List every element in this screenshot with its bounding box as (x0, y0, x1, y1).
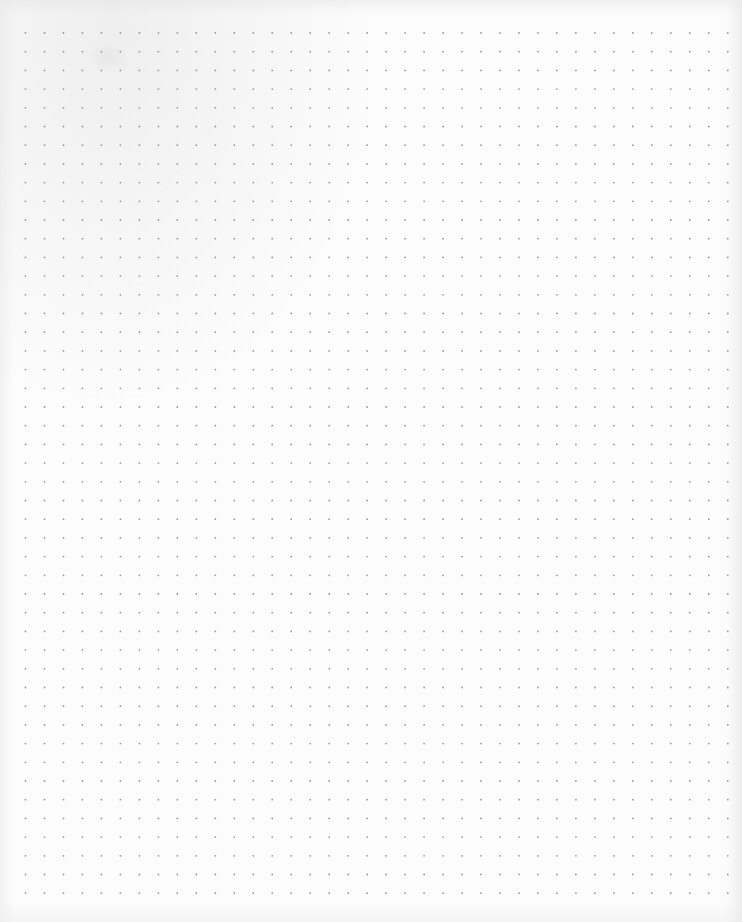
grid-dot (537, 892, 539, 894)
grid-dot (632, 406, 634, 408)
grid-dot (613, 257, 615, 259)
grid-dot (404, 668, 406, 670)
grid-dot (233, 257, 235, 259)
grid-dot (176, 257, 178, 259)
grid-dot (63, 406, 65, 408)
grid-dot (139, 537, 141, 539)
grid-dot (271, 574, 273, 576)
grid-dot (689, 294, 691, 296)
grid-dot (366, 331, 368, 333)
grid-dot (63, 88, 65, 90)
grid-dot (499, 219, 501, 221)
grid-dot (195, 593, 197, 595)
grid-dot (594, 88, 596, 90)
grid-dot (44, 649, 46, 651)
grid-dot (689, 631, 691, 633)
grid-dot (689, 855, 691, 857)
grid-dot (442, 257, 444, 259)
grid-dot (271, 126, 273, 128)
grid-dot (480, 32, 482, 34)
grid-dot (404, 88, 406, 90)
grid-dot (158, 257, 160, 259)
grid-dot (442, 238, 444, 240)
grid-dot (594, 743, 596, 745)
grid-dot (158, 200, 160, 202)
grid-dot (651, 32, 653, 34)
grid-dot (632, 107, 634, 109)
grid-dot (176, 556, 178, 558)
grid-dot (385, 387, 387, 389)
grid-dot (461, 275, 463, 277)
grid-dot (139, 818, 141, 820)
grid-dot (632, 705, 634, 707)
grid-dot (290, 612, 292, 614)
grid-dot (309, 668, 311, 670)
grid-dot (499, 612, 501, 614)
grid-dot (44, 163, 46, 165)
grid-dot (385, 275, 387, 277)
grid-dot (120, 761, 122, 763)
grid-dot (442, 518, 444, 520)
grid-dot (82, 780, 84, 782)
grid-dot (518, 724, 520, 726)
grid-dot (139, 219, 141, 221)
grid-dot (347, 649, 349, 651)
grid-dot (214, 387, 216, 389)
grid-dot (309, 574, 311, 576)
grid-dot (63, 574, 65, 576)
grid-dot (575, 631, 577, 633)
grid-dot (139, 126, 141, 128)
grid-dot (708, 70, 710, 72)
grid-dot (158, 855, 160, 857)
grid-dot (689, 649, 691, 651)
grid-dot (347, 257, 349, 259)
grid-dot (347, 761, 349, 763)
grid-dot (25, 294, 27, 296)
grid-dot (423, 88, 425, 90)
grid-dot (176, 799, 178, 801)
grid-dot (499, 836, 501, 838)
grid-dot (366, 275, 368, 277)
grid-dot (25, 88, 27, 90)
grid-dot (556, 275, 558, 277)
grid-dot (82, 425, 84, 427)
grid-dot (214, 182, 216, 184)
grid-dot (632, 331, 634, 333)
grid-dot (158, 294, 160, 296)
grid-dot (613, 780, 615, 782)
grid-dot (404, 892, 406, 894)
grid-dot (214, 743, 216, 745)
grid-dot (158, 238, 160, 240)
grid-dot (82, 649, 84, 651)
grid-dot (651, 518, 653, 520)
grid-dot (347, 294, 349, 296)
grid-dot (101, 836, 103, 838)
grid-dot (651, 574, 653, 576)
grid-dot (44, 874, 46, 876)
grid-dot (480, 537, 482, 539)
grid-dot (82, 631, 84, 633)
grid-dot (101, 799, 103, 801)
grid-dot (632, 350, 634, 352)
grid-dot (461, 163, 463, 165)
grid-dot (195, 724, 197, 726)
grid-dot (158, 182, 160, 184)
grid-dot (101, 855, 103, 857)
grid-dot (25, 126, 27, 128)
grid-dot (63, 387, 65, 389)
grid-dot (328, 518, 330, 520)
grid-dot (670, 705, 672, 707)
grid-dot (120, 257, 122, 259)
grid-dot (233, 51, 235, 53)
grid-dot (82, 518, 84, 520)
grid-dot (120, 668, 122, 670)
grid-dot (613, 387, 615, 389)
grid-dot (101, 163, 103, 165)
grid-dot (82, 182, 84, 184)
grid-dot (594, 761, 596, 763)
grid-dot (139, 444, 141, 446)
grid-dot (499, 275, 501, 277)
grid-dot (120, 219, 122, 221)
grid-dot (670, 799, 672, 801)
grid-dot (44, 687, 46, 689)
